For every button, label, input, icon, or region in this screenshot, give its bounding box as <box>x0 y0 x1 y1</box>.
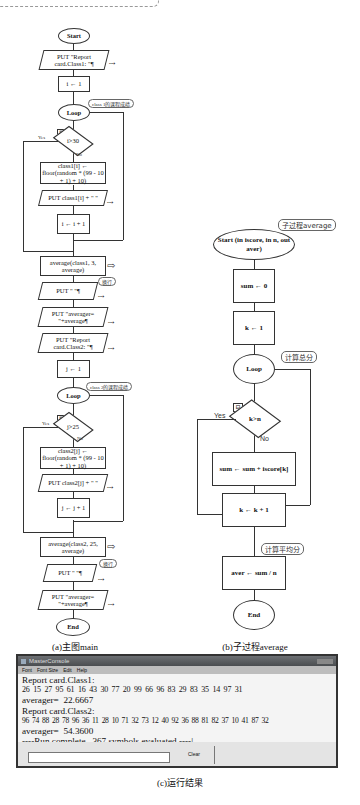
output-line: averager= 54.3600 <box>22 726 332 736</box>
sub-end-node: End <box>233 600 275 630</box>
node-label: average(class1, 3, average) <box>41 259 105 274</box>
divider <box>214 746 215 764</box>
node-label: k>n <box>249 415 261 423</box>
console-caption: (c)运行结果 <box>130 776 230 789</box>
condition1-node: i>30 <box>56 130 90 152</box>
k-increment-node: k ← k + 1 <box>222 493 286 527</box>
console-input[interactable] <box>28 752 170 763</box>
node-label: class2[j] ← floor(random * (99 - 10 + 1)… <box>41 447 105 469</box>
output-arrow-icon: ⇢ <box>98 293 105 301</box>
exit-connector <box>23 141 24 251</box>
loop1-node: Loop <box>58 104 90 121</box>
menu-font[interactable]: Font <box>22 667 32 673</box>
window-controls[interactable] <box>317 659 333 664</box>
output-arrow-icon: ⇢ <box>107 199 114 207</box>
no-label: No <box>76 152 82 157</box>
loop-back-connector <box>73 521 123 522</box>
output-arrow-icon: ⇢ <box>108 601 115 609</box>
put-class1-node: PUT class1[i] + " " <box>40 190 106 206</box>
average-comment: 计算平均分 <box>261 543 304 555</box>
node-label: class1[i] ← floor(random * (99 - 10 + 1)… <box>41 162 105 184</box>
exit-connector <box>197 419 198 514</box>
console-output[interactable]: Report card.Class1: 26 15 27 95 61 16 43… <box>18 674 336 744</box>
output-arrow-icon: ⇢ <box>98 576 105 584</box>
newline-comment: 换行 <box>99 559 117 568</box>
i-init-node: i ← 1 <box>58 76 90 92</box>
put-class2-node: PUT class2[j] + " " <box>40 474 106 492</box>
loop-back-connector <box>73 240 123 241</box>
node-label: sum ← 0 <box>241 282 267 290</box>
average-class1-call-node: average(class1, 3, average) <box>40 256 106 276</box>
node-label: Loop <box>246 365 262 373</box>
exit-connector <box>23 427 58 428</box>
loop2-comment: class 2的课程成绩 <box>86 382 132 391</box>
node-label: PUT "averager= "+average¶ <box>40 593 106 608</box>
i-increment-node: i ← i + 1 <box>57 214 90 234</box>
sum-comment: 计算总分 <box>281 351 317 363</box>
menu-help[interactable]: Help <box>77 667 87 673</box>
output-arrow-icon: ⇢ <box>108 345 115 353</box>
dashed-border-decoration <box>0 0 159 7</box>
output-arrow-icon: ⇢ <box>107 484 114 492</box>
node-label: PUT class1[i] + " " <box>48 194 98 201</box>
sum-init-node: sum ← 0 <box>233 269 275 303</box>
loop1-comment: class 1的课程成绩 <box>88 99 134 108</box>
put-average1-node: PUT "averager= "+average¶ <box>40 307 106 327</box>
put-newline1-node: PUT " "¶ <box>40 282 96 300</box>
subprocedure-title-comment: 子过程average <box>278 219 336 231</box>
call-arrow-icon: ⇨ <box>107 542 115 552</box>
average-class2-call-node: average(class2, 25, average) <box>40 537 106 557</box>
no-label: No <box>77 436 83 441</box>
node-label: average(class2, 25, average) <box>41 540 105 555</box>
put-average2-node: PUT "averager= "+average¶ <box>40 590 106 610</box>
node-label: PUT " "¶ <box>58 569 82 576</box>
sub-caption: (b)子过程average <box>210 640 300 653</box>
node-label: PUT "averager= "+average¶ <box>40 310 106 325</box>
assign-class2-node: class2[j] ← floor(random * (99 - 10 + 1)… <box>40 447 106 469</box>
node-label: End <box>248 611 260 619</box>
sub-start-node: Start (in iscore, in n, out aver) <box>213 229 295 260</box>
loop2-node: Loop <box>57 387 90 404</box>
loop-back-connector <box>90 395 123 396</box>
put-newline2-node: PUT " "¶ <box>45 564 95 582</box>
loop-back-connector <box>310 369 311 505</box>
menu-edit[interactable]: Edit <box>63 667 72 673</box>
node-label: Start (in iscore, in n, out aver) <box>214 236 294 252</box>
node-label: Loop <box>66 392 80 399</box>
node-label: i ← i + 1 <box>62 220 86 227</box>
output-line: 26 15 27 95 61 16 43 30 77 20 99 66 96 8… <box>22 685 332 695</box>
put-report-class2-node: PUT "Report card.Class2: "¶ <box>40 333 106 353</box>
sub-condition-node: k>n <box>234 403 276 435</box>
connector <box>254 590 255 600</box>
loop-back-connector <box>90 112 123 113</box>
menu-font-size[interactable]: Font Size <box>37 667 58 673</box>
j-init-node: j ← 1 <box>57 360 90 378</box>
node-label: PUT class2[j] + " " <box>48 479 98 486</box>
yes-label: Yes <box>214 412 225 419</box>
clear-button[interactable]: Clear <box>188 751 200 757</box>
output-line: 96 74 88 28 78 96 36 11 28 10 71 32 73 1… <box>22 716 332 726</box>
loop-back-connector <box>275 369 310 370</box>
node-label: aver ← sum / n <box>231 569 276 577</box>
exit-connector <box>197 419 236 420</box>
node-label: PUT " "¶ <box>56 287 80 294</box>
console-bottom-bar: Clear <box>18 742 336 766</box>
output-arrow-icon: ⇢ <box>108 319 115 327</box>
output-line: Report card.Class1: <box>22 675 332 685</box>
node-label: k ← 1 <box>245 324 263 332</box>
output-line: averager= 22.6667 <box>22 695 332 705</box>
condition2-node: j>25 <box>56 416 90 438</box>
node-label: k ← k + 1 <box>239 506 268 514</box>
j-increment-node: j ← j + 1 <box>57 498 90 518</box>
sum-add-node: sum ← sum + iscore[k] <box>212 452 296 486</box>
master-console-window: MasterConsole Font Font Size Edit Help R… <box>16 654 338 768</box>
put-report-class1-node: PUT "Report card.Class1: "¶ <box>41 50 107 70</box>
k-init-node: k ← 1 <box>233 311 275 345</box>
window-titlebar[interactable]: MasterConsole <box>18 656 336 666</box>
yes-label: Yes <box>42 421 49 426</box>
window-title: MasterConsole <box>29 658 69 664</box>
node-label: sum ← sum + iscore[k] <box>220 465 289 473</box>
node-label: PUT "Report card.Class1: "¶ <box>41 53 107 68</box>
start-node: Start <box>58 28 90 44</box>
no-label: No <box>260 435 269 442</box>
